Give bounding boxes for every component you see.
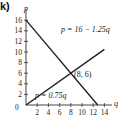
intersection-label: (8, 6) xyxy=(74,70,92,79)
x-tick-label: 12 xyxy=(89,108,97,117)
line-chart: k) 246810121416 2468101214 p q 0 p = 16 … xyxy=(0,0,122,120)
part-label: k) xyxy=(0,0,10,12)
demand-equation-label: p = 16 − 1.25q xyxy=(60,25,110,34)
x-tick-label: 4 xyxy=(47,108,51,117)
x-tick-label: 10 xyxy=(78,108,86,117)
y-tick-label: 14 xyxy=(15,26,23,35)
y-tick-label: 6 xyxy=(18,69,22,78)
y-tick-label: 8 xyxy=(18,58,22,67)
origin-label: 0 xyxy=(15,103,19,112)
y-axis-label: p xyxy=(23,4,28,13)
y-tick-label: 12 xyxy=(15,37,23,46)
y-tick-label: 2 xyxy=(18,90,22,99)
x-axis-label: q xyxy=(114,99,118,108)
y-tick-label: 16 xyxy=(15,16,23,25)
x-tick-label: 2 xyxy=(35,108,39,117)
y-tick-label: 10 xyxy=(15,48,23,57)
x-tick-label: 6 xyxy=(58,108,62,117)
supply-equation-label: p = 0.75q xyxy=(34,91,66,100)
x-tick-label: 14 xyxy=(101,108,109,117)
y-tick-label: 4 xyxy=(18,79,22,88)
x-tick-label: 8 xyxy=(69,108,73,117)
axes: 246810121416 2468101214 p q 0 xyxy=(15,4,119,117)
